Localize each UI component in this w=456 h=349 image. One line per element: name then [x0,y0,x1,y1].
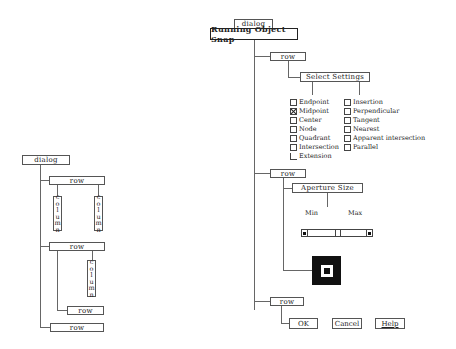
slider-left-arrow-icon[interactable] [302,230,308,236]
help-button[interactable]: Help [375,318,405,329]
checkbox-icon[interactable] [290,135,297,142]
row-node-1: row [270,52,306,61]
checkbox-icon[interactable] [344,99,351,106]
ok-button[interactable]: OK [289,318,318,329]
checkbox-midpoint[interactable]: Midpoint [290,107,329,115]
left-connector [57,251,58,310]
row-node-2: row [270,169,306,178]
left-connector [40,327,50,328]
checkbox-insertion[interactable]: Insertion [344,98,383,106]
slider-right-arrow-icon[interactable] [366,230,372,236]
checkbox-center[interactable]: Center [290,116,322,124]
checkbox-apparent-intersection[interactable]: Apparent intersection [344,134,425,142]
right-connector [283,178,284,270]
left-column-node-2: column [94,196,103,231]
left-connector [40,246,49,247]
right-trunk [254,40,255,310]
left-row-node-4: row [50,323,104,332]
right-connector [288,61,289,77]
max-label: Max [348,209,362,217]
right-connector [281,323,289,324]
checkbox-icon[interactable] [290,99,297,106]
checkbox-icon[interactable] [290,126,297,133]
left-row-node-1: row [49,176,105,185]
right-connector [254,301,270,302]
left-row-node-3: row [67,306,104,315]
left-column-node-3: column [87,260,96,297]
checkbox-parallel[interactable]: Parallel [344,143,378,151]
checkbox-quadrant[interactable]: Quadrant [290,134,330,142]
checkbox-nearest[interactable]: Nearest [344,125,379,133]
checkbox-icon[interactable] [344,117,351,124]
left-column-node-1: column [53,196,62,231]
checked-checkbox-icon[interactable] [290,108,297,115]
right-connector [288,77,300,78]
right-connector [254,56,270,57]
checkbox-tangent[interactable]: Tangent [344,116,380,124]
checkbox-node[interactable]: Node [290,125,317,133]
left-row-node-2: row [49,242,105,251]
aperture-slider[interactable] [301,229,373,237]
checkbox-icon[interactable] [344,144,351,151]
left-dialog-node: dialog [22,155,70,165]
checkbox-icon[interactable] [344,135,351,142]
checkbox-icon[interactable] [344,126,351,133]
checkbox-intersection[interactable]: Intersection [290,143,339,151]
left-connector [40,180,49,181]
checkbox-icon[interactable] [290,117,297,124]
right-connector [312,82,313,95]
right-connector [283,270,312,271]
aperture-size-group-title: Aperture Size [292,183,363,193]
left-connector [57,310,67,311]
right-connector [281,306,282,323]
checkbox-perpendicular[interactable]: Perpendicular [344,107,399,115]
select-settings-group-title: Select Settings [300,72,370,82]
right-connector [254,173,270,174]
cancel-button[interactable]: Cancel [332,318,362,329]
checkbox-icon[interactable] [290,144,297,151]
aperture-preview-image [312,256,341,285]
row-node-3: row [270,297,304,306]
checkbox-endpoint[interactable]: Endpoint [290,98,329,106]
min-label: Min [305,209,318,217]
right-connector [359,82,360,95]
dialog-title: Running Object Snap [210,28,298,40]
aperture-box-icon [321,265,333,277]
right-connector [283,188,292,189]
checkbox-extension[interactable]: Extension [290,152,332,160]
right-connector [327,193,328,207]
checkbox-icon[interactable] [344,108,351,115]
slider-thumb[interactable] [335,229,341,237]
checkbox-icon[interactable] [290,153,297,160]
